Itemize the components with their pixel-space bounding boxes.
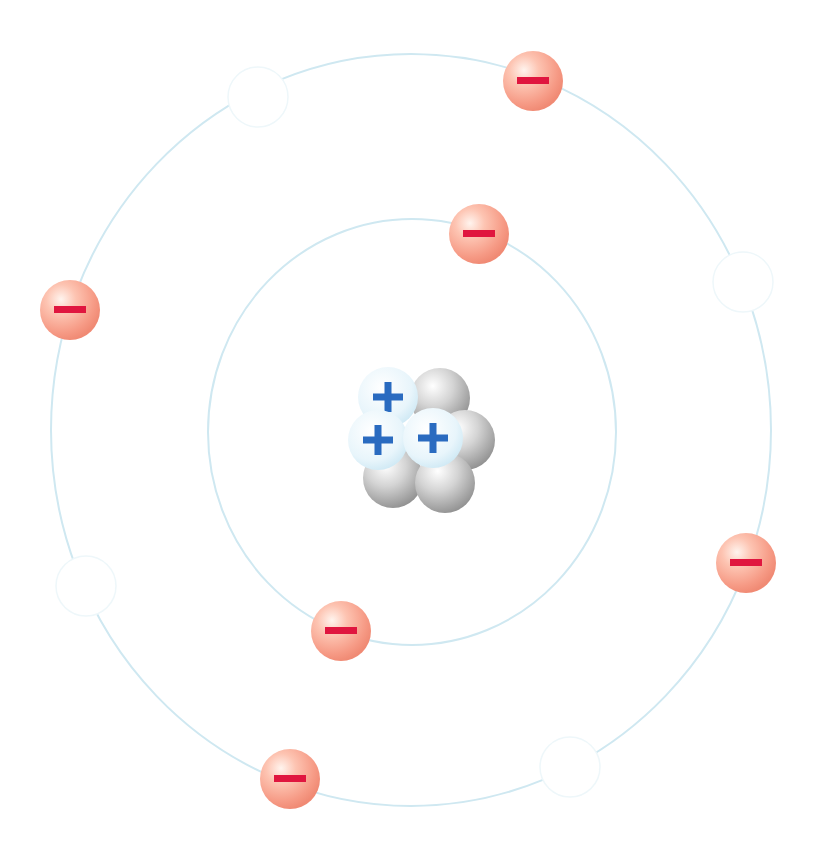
electron [449,204,509,264]
electron [260,749,320,809]
atom-svg [0,0,824,856]
minus-icon [517,77,549,84]
electron-hole [713,252,773,312]
nucleus [348,367,495,513]
electron-hole [56,556,116,616]
plus-icon-v [430,423,437,453]
electron [311,601,371,661]
proton [348,410,408,470]
plus-icon-v [375,425,382,455]
minus-icon [325,627,357,634]
electron [503,51,563,111]
atom-diagram [0,0,824,856]
plus-icon-v [385,382,392,412]
electron [716,533,776,593]
electron [40,280,100,340]
electron-hole [228,67,288,127]
minus-icon [274,775,306,782]
proton [403,408,463,468]
minus-icon [463,230,495,237]
minus-icon [730,559,762,566]
minus-icon [54,306,86,313]
electron-hole [540,737,600,797]
